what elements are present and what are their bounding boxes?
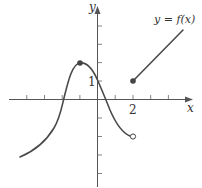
filled-point-at-2-1	[130, 78, 136, 84]
y-tick-label-1: 1	[88, 75, 96, 89]
open-point-at-2-neg2	[130, 134, 135, 139]
y-axis-label: y	[89, 0, 96, 14]
x-axis-label: x	[187, 101, 194, 115]
peak-filled-point	[77, 60, 83, 66]
axes	[9, 10, 190, 187]
x-tick-label-2: 2	[129, 103, 137, 117]
curve-left-piece	[20, 63, 131, 157]
function-label: y = f(x)	[154, 13, 195, 26]
function-graph	[0, 0, 202, 188]
line-right-piece	[133, 30, 183, 81]
